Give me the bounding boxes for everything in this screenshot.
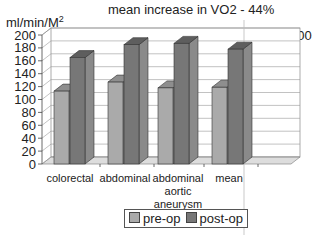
y-tick-label: 100 bbox=[14, 92, 36, 107]
side-gridline bbox=[42, 131, 51, 138]
legend-label-pre-op: pre-op bbox=[143, 211, 181, 226]
x-category-label: mean bbox=[189, 172, 269, 185]
y-tick-label: 120 bbox=[14, 79, 36, 94]
side-gridline bbox=[42, 67, 51, 74]
y-tick-label: 20 bbox=[22, 144, 36, 159]
side-gridline bbox=[42, 80, 51, 87]
side-gridline bbox=[42, 41, 51, 48]
y-tick-label: 60 bbox=[22, 118, 36, 133]
bar-side-post-op bbox=[189, 36, 198, 164]
bar-post-op bbox=[124, 45, 139, 164]
side-gridline bbox=[42, 93, 51, 100]
bar-side-post-op bbox=[243, 42, 252, 164]
y-tick-label: 0 bbox=[29, 157, 36, 172]
bar-pre-op bbox=[212, 87, 227, 164]
side-gridline bbox=[42, 144, 51, 151]
side-gridline bbox=[42, 54, 51, 61]
bar-side-post-op bbox=[139, 38, 148, 164]
legend: pre-oppost-op bbox=[124, 209, 248, 228]
side-gridline bbox=[42, 105, 51, 112]
legend-swatch-pre-op bbox=[129, 212, 140, 223]
y-tick-label: 180 bbox=[14, 40, 36, 55]
bar-pre-op bbox=[158, 88, 173, 164]
legend-swatch-post-op bbox=[186, 212, 197, 223]
y-tick-label: 160 bbox=[14, 53, 36, 68]
bar-post-op bbox=[228, 49, 243, 164]
bar-side-post-op bbox=[85, 51, 94, 164]
y-tick-label: 80 bbox=[22, 105, 36, 120]
bar-post-op bbox=[70, 58, 85, 164]
bar-pre-op bbox=[108, 82, 123, 164]
bar-post-op bbox=[174, 43, 189, 164]
legend-label-post-op: post-op bbox=[200, 211, 243, 226]
bar-pre-op bbox=[54, 91, 69, 164]
y-tick-label: 200 bbox=[14, 28, 36, 43]
y-tick-label: 140 bbox=[14, 66, 36, 81]
y-tick-label: 40 bbox=[22, 131, 36, 146]
side-top bbox=[42, 28, 51, 35]
side-gridline bbox=[42, 118, 51, 125]
